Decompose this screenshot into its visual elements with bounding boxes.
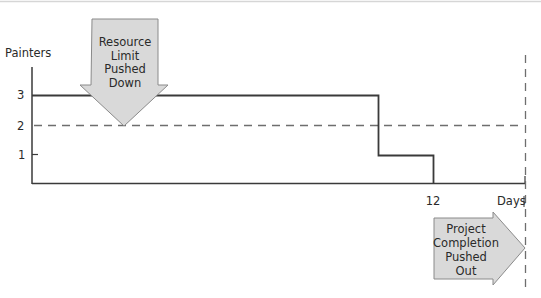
resource-profile-line	[32, 96, 434, 185]
right-arrow-callout: Project Completion Pushed Out	[433, 212, 525, 285]
down-arrow-text-2: Limit	[111, 49, 140, 63]
x-axis-label: Days	[497, 194, 526, 208]
right-arrow-text-2: Completion	[433, 236, 499, 250]
right-arrow-text-3: Pushed	[445, 250, 487, 264]
resource-leveling-chart: Painters 3 2 1 12 Days Resource Limit Pu…	[0, 0, 541, 298]
right-arrow-text-4: Out	[456, 264, 477, 278]
x-tick-label-12: 12	[426, 194, 441, 208]
y-tick-label-2: 2	[17, 119, 24, 133]
y-tick-label-3: 3	[17, 88, 24, 102]
down-arrow-text-1: Resource	[99, 35, 152, 49]
down-arrow-text-4: Down	[109, 76, 142, 90]
down-arrow-text-3: Pushed	[104, 62, 146, 76]
down-arrow-callout: Resource Limit Pushed Down	[80, 19, 168, 126]
right-arrow-text-1: Project	[446, 222, 486, 236]
y-tick-label-1: 1	[18, 148, 25, 162]
y-axis-label: Painters	[5, 46, 51, 60]
